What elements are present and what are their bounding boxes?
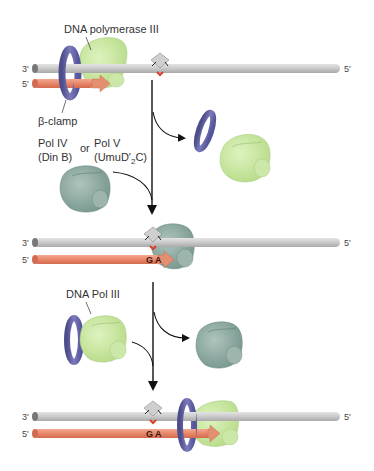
beta-clamp — [67, 318, 81, 362]
pol-iii-label: DNA polymerase III — [64, 23, 159, 35]
base-a: A — [155, 255, 162, 265]
template-5prime-label: 5' — [344, 238, 351, 248]
or-label: or — [80, 142, 90, 154]
recruit-arrow-1 — [113, 172, 152, 200]
beta-clamp-label: β-clamp — [38, 115, 77, 127]
panel-switch: Pol IV (Din B) or Pol V (UmuD'2C) — [38, 137, 147, 212]
template-3prime-label: 3' — [22, 238, 29, 248]
pol-v-label: Pol V — [94, 137, 121, 149]
base-a: A — [155, 429, 162, 439]
pol-iii-lobe — [108, 73, 124, 87]
template-end — [32, 64, 38, 73]
beta-clamp — [180, 401, 194, 449]
base-g: G — [146, 255, 153, 265]
recruit-arrow-2 — [132, 342, 153, 366]
translesion-synthesis-diagram: 3' 5' 5' DNA polymerase III β-clamp Pol … — [0, 0, 374, 471]
primer-5prime-label: 5' — [22, 255, 29, 265]
template-3prime-label: 3' — [22, 64, 29, 74]
primer-strand — [34, 255, 160, 264]
panel-bypass: G A 3' 5' 5' — [22, 224, 351, 269]
pol-iv-v-enzyme — [60, 166, 110, 212]
template-3prime-label: 3' — [22, 412, 29, 422]
panel-resumed: G A 3' 5' 5' — [22, 401, 351, 449]
pol-iv-label: Pol IV — [38, 137, 68, 149]
release-arrow-2 — [154, 312, 186, 338]
template-5prime-label: 5' — [344, 412, 351, 422]
pol-iii-enzyme — [80, 316, 126, 362]
template-strand — [34, 238, 340, 247]
released-pol-iv-v — [196, 322, 242, 368]
template-5prime-label: 5' — [344, 64, 351, 74]
primer-5prime-label: 5' — [22, 79, 29, 89]
primer-5prime-label: 5' — [22, 429, 29, 439]
released-beta-clamp — [193, 111, 216, 151]
pol-v-gene-label: (UmuD'2C) — [94, 151, 147, 166]
panel-restart: DNA Pol III — [66, 288, 242, 368]
pol-iv-gene-label: (Din B) — [38, 151, 72, 163]
release-arrow-1 — [153, 112, 182, 138]
panel-stalled: 3' 5' 5' DNA polymerase III β-clamp — [22, 23, 351, 127]
template-strand — [34, 412, 340, 421]
released-pol-iii — [220, 134, 270, 182]
primer-strand — [34, 429, 212, 438]
dna-pol-iii-label: DNA Pol III — [66, 288, 120, 300]
base-g: G — [146, 429, 153, 439]
